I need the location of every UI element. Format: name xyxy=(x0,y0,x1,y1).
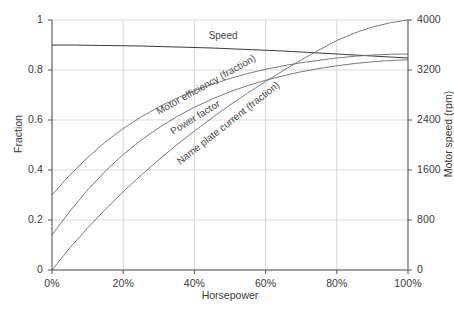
y-axis-title-right: Motor speed (rpm) xyxy=(442,79,454,189)
y-axis-tick-label-right: 4000 xyxy=(417,13,441,25)
x-axis-tick-label: 80% xyxy=(307,277,367,289)
chart-figure: SpeedSpeedMotor efficiency (fraction)Pow… xyxy=(0,0,454,312)
chart-plot-area: SpeedSpeedMotor efficiency (fraction)Pow… xyxy=(0,0,454,312)
y-axis-tick-label-left: 0 xyxy=(0,263,43,275)
x-axis-tick-label: 60% xyxy=(236,277,296,289)
axes-group xyxy=(48,20,412,274)
y-axis-tick-label-left: 0.8 xyxy=(0,63,43,75)
y-axis-tick-label-left: 0.2 xyxy=(0,213,43,225)
x-axis-tick-label: 40% xyxy=(164,277,224,289)
y-axis-tick-label-right: 1600 xyxy=(417,163,441,175)
x-axis-tick-label: 100% xyxy=(378,277,438,289)
x-axis-tick-label: 0% xyxy=(22,277,82,289)
y-axis-tick-label-right: 0 xyxy=(417,263,423,275)
y-axis-tick-label-right: 3200 xyxy=(417,63,441,75)
y-axis-title-left: Fraction xyxy=(12,94,24,174)
y-axis-tick-label-right: 800 xyxy=(417,213,435,225)
x-axis-tick-label: 20% xyxy=(93,277,153,289)
series-curves-group xyxy=(52,20,408,270)
series-curve xyxy=(52,20,408,270)
gridlines-group xyxy=(52,20,408,270)
y-axis-tick-label-right: 2400 xyxy=(417,113,441,125)
series-inline-label: Speed xyxy=(209,30,238,41)
x-axis-title: Horsepower xyxy=(147,289,313,301)
y-axis-tick-label-left: 1 xyxy=(0,13,43,25)
